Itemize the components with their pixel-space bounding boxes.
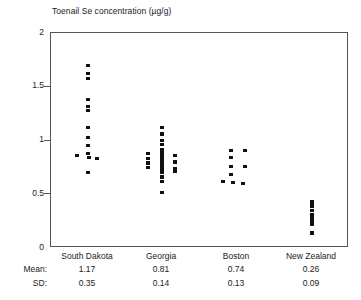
data-point [241,182,244,185]
data-point [86,126,89,129]
stats-cell: 0.14 [153,278,170,288]
data-point [229,173,232,176]
data-point [87,156,90,159]
data-point [146,166,149,169]
data-point [160,143,163,146]
chart-title: Toenail Se concentration (µg/g) [52,6,171,16]
data-point [221,180,224,183]
data-point [231,181,234,184]
stats-cell: 0.74 [228,264,245,274]
data-point [310,223,313,226]
data-point [86,144,89,147]
data-point [173,167,176,170]
data-point [86,105,89,108]
data-point [160,126,163,129]
data-point [146,152,149,155]
stats-table: South DakotaGeorgiaBostonNew ZealandMean… [0,250,361,300]
y-axis-tick-label: 0.5 [10,188,44,198]
data-point [146,161,149,164]
stats-cell: 0.13 [228,278,245,288]
data-point [229,156,232,159]
data-point [160,171,163,174]
data-point [160,139,163,142]
chart-figure: Toenail Se concentration (µg/g) 00.511.5… [0,0,361,300]
data-point [86,109,89,112]
data-point [160,191,163,194]
category-label-boston: Boston [223,251,249,261]
data-point [173,154,176,157]
data-point [86,171,89,174]
category-label-south-dakota: South Dakota [61,251,113,261]
stats-cell: 0.81 [153,264,170,274]
stats-cell: 1.17 [79,264,96,274]
data-point [86,77,89,80]
data-point [173,170,176,173]
data-point [243,165,246,168]
stats-cell: 0.26 [303,264,320,274]
data-point [86,136,89,139]
stats-row-label: SD: [1,278,47,288]
data-point [86,72,89,75]
data-point [229,165,232,168]
data-point [146,157,149,160]
y-axis-tick-label: 1.5 [10,80,44,90]
data-point [310,231,313,234]
data-point [243,149,246,152]
category-label-new-zealand: New Zealand [286,251,336,261]
data-point [86,152,89,155]
y-axis-tick-label: 1 [10,134,44,144]
data-point [86,98,89,101]
data-point [229,149,232,152]
data-point [173,160,176,163]
data-point [75,154,78,157]
plot-area [50,32,348,247]
data-point [160,132,163,135]
data-point [310,204,313,207]
category-label-georgia: Georgia [146,251,176,261]
data-point [95,157,98,160]
data-point [160,175,163,178]
stats-row-label: Mean: [1,264,47,274]
data-point [86,64,89,67]
stats-cell: 0.35 [79,278,96,288]
stats-cell: 0.09 [303,278,320,288]
data-point [160,180,163,183]
y-axis-tick-label: 2 [10,27,44,37]
data-point [310,209,313,212]
